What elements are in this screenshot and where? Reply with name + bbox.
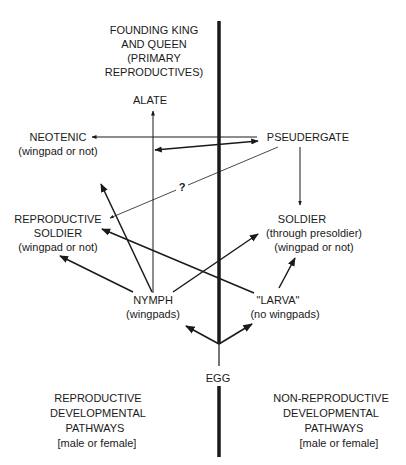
arrow-pseudergate-nymph-bidirectional (155, 141, 258, 150)
node-nymph: NYMPH (wingpads) (126, 294, 180, 320)
svg-text:PATHWAYS: PATHWAYS (66, 422, 125, 434)
svg-text:FOUNDING KING: FOUNDING KING (110, 24, 199, 36)
caste-development-diagram: ? FOUNDING KING AND QUEEN (PRIMARY REPRO… (0, 0, 406, 465)
svg-text:(through presoldier): (through presoldier) (266, 227, 362, 239)
svg-text:PATHWAYS: PATHWAYS (305, 422, 364, 434)
svg-text:"LARVA": "LARVA" (257, 294, 300, 306)
arrow-nymph-to-soldier (173, 234, 258, 292)
svg-text:REPRODUCTIVE: REPRODUCTIVE (54, 392, 141, 404)
svg-text:(wingpads): (wingpads) (126, 308, 180, 320)
arrow-egg-to-larva (219, 324, 252, 344)
svg-text:(no wingpads): (no wingpads) (250, 308, 319, 320)
arrow-egg-to-nymph (186, 326, 219, 344)
title-founding-king-and-queen: FOUNDING KING AND QUEEN (PRIMARY REPRODU… (105, 24, 203, 78)
svg-text:(wingpad or not): (wingpad or not) (274, 241, 354, 253)
footer-reproductive-pathways: REPRODUCTIVE DEVELOPMENTAL PATHWAYS [mal… (50, 392, 146, 449)
arrow-nymph-to-neotenic (101, 184, 152, 292)
node-alate: ALATE (133, 94, 167, 106)
node-reproductive-soldier: REPRODUCTIVE SOLDIER (wingpad or not) (14, 213, 101, 253)
svg-text:REPRODUCTIVES): REPRODUCTIVES) (105, 66, 203, 78)
svg-text:DEVELOPMENTAL: DEVELOPMENTAL (50, 407, 146, 419)
arrow-larva-to-reproductive-soldier (102, 229, 254, 293)
node-pseudergate: PSEUDERGATE (267, 131, 349, 143)
node-neotenic: NEOTENIC (wingpad or not) (18, 131, 98, 157)
svg-text:(wingpad or not): (wingpad or not) (18, 145, 98, 157)
arrow-larva-to-soldier (279, 258, 295, 288)
svg-text:NON-REPRODUCTIVE: NON-REPRODUCTIVE (273, 392, 389, 404)
svg-text:SOLDIER: SOLDIER (34, 227, 82, 239)
svg-text:SOLDIER: SOLDIER (278, 213, 326, 225)
svg-text:(wingpad or not): (wingpad or not) (18, 241, 98, 253)
svg-text:AND QUEEN: AND QUEEN (121, 38, 186, 50)
node-egg: EGG (206, 372, 230, 384)
uncertain-marker: ? (179, 181, 186, 193)
node-larva: "LARVA" (no wingpads) (250, 294, 319, 320)
arrow-nymph-to-reproductive-soldier (60, 256, 133, 292)
svg-text:DEVELOPMENTAL: DEVELOPMENTAL (283, 407, 379, 419)
node-soldier: SOLDIER (through presoldier) (wingpad or… (266, 213, 362, 253)
svg-text:NEOTENIC: NEOTENIC (30, 131, 87, 143)
svg-text:REPRODUCTIVE: REPRODUCTIVE (14, 213, 101, 225)
svg-text:[male or female]: [male or female] (58, 437, 137, 449)
svg-text:(PRIMARY: (PRIMARY (127, 52, 181, 64)
footer-non-reproductive-pathways: NON-REPRODUCTIVE DEVELOPMENTAL PATHWAYS … (273, 392, 389, 449)
svg-text:NYMPH: NYMPH (133, 294, 173, 306)
svg-text:[male or female]: [male or female] (300, 437, 379, 449)
arrow-pseudergate-to-reproductive-soldier-uncertain (110, 147, 278, 218)
